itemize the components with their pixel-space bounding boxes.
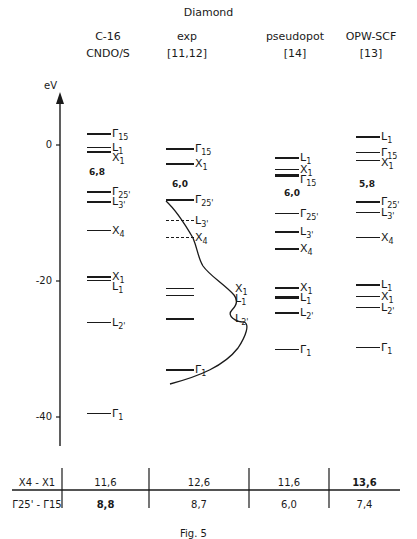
energy-level-line xyxy=(275,312,299,313)
energy-level-line xyxy=(356,212,380,213)
energy-level-line xyxy=(87,276,111,277)
energy-level-label: X4 xyxy=(112,225,125,240)
table-cell: 8,7 xyxy=(149,493,249,515)
energy-level-label: L1 xyxy=(112,281,123,296)
energy-level-line xyxy=(166,369,194,370)
energy-level-label: L3' xyxy=(112,196,125,211)
energy-level-line xyxy=(87,133,111,134)
figure-caption: Fig. 5 xyxy=(180,528,207,539)
table-row: X4 - X1 11,6 12,6 11,6 13,6 xyxy=(12,471,400,493)
energy-level-line xyxy=(356,160,380,161)
energy-level-label: Γ25' xyxy=(195,194,214,209)
energy-level-line xyxy=(166,199,194,200)
energy-level-line xyxy=(87,191,111,192)
energy-level-label: L1 xyxy=(300,292,311,307)
energy-level-line xyxy=(87,322,111,323)
energy-level-line xyxy=(275,157,299,158)
energy-level-label: L2' xyxy=(112,317,125,332)
energy-level-line xyxy=(356,237,380,238)
energy-level-line xyxy=(275,174,299,177)
energy-level-label: L2' xyxy=(300,307,313,322)
energy-level-line xyxy=(87,151,111,152)
energy-level-line xyxy=(275,349,299,350)
energy-level-label: X4 xyxy=(381,232,394,247)
energy-level-line xyxy=(166,163,194,164)
table-cell: 11,6 xyxy=(249,471,329,493)
table-cell: 13,6 xyxy=(329,471,400,493)
energy-level-label: X4 xyxy=(195,232,208,247)
gap-value-opw: 5,8 xyxy=(359,179,375,189)
energy-level-line xyxy=(275,213,299,214)
energy-level-label: Γ1 xyxy=(112,408,123,423)
energy-level-line xyxy=(87,230,111,231)
energy-level-line xyxy=(166,237,194,238)
energy-level-label: X4 xyxy=(300,243,313,258)
energy-level-line xyxy=(356,284,380,285)
energy-level-label: Γ1 xyxy=(381,342,392,357)
energy-level-line xyxy=(275,296,299,299)
energy-level-label: Γ15 xyxy=(300,174,316,189)
energy-level-line xyxy=(356,152,380,153)
gap-value-exp: 6,0 xyxy=(172,179,188,189)
axis-tick-minus40: -40 xyxy=(22,411,52,422)
energy-level-label: L1 xyxy=(235,293,246,308)
energy-level-line xyxy=(275,169,299,170)
axis-tick-minus20: -20 xyxy=(22,275,52,286)
energy-level-label: L2' xyxy=(381,302,394,317)
energy-level-label: X1 xyxy=(195,158,208,173)
table-cell: 6,0 xyxy=(249,493,329,515)
comparison-table: X4 - X1 11,6 12,6 11,6 13,6 Γ25' - Γ15 8… xyxy=(12,471,400,515)
energy-level-label: Γ1 xyxy=(195,364,206,379)
row-label: X4 - X1 xyxy=(12,471,62,493)
table-cell: 11,6 xyxy=(62,471,149,493)
energy-level-line xyxy=(166,148,194,149)
energy-level-line xyxy=(275,287,299,288)
energy-level-label: Γ1 xyxy=(300,344,311,359)
energy-level-label: Γ25' xyxy=(300,208,319,223)
table-cell: 12,6 xyxy=(149,471,249,493)
energy-level-label: X1 xyxy=(381,157,394,172)
energy-level-line xyxy=(166,295,194,296)
energy-level-line xyxy=(166,318,194,319)
energy-level-line xyxy=(356,136,380,137)
energy-level-label: X1 xyxy=(112,152,125,167)
energy-level-line xyxy=(275,248,299,249)
energy-level-line xyxy=(87,147,111,148)
energy-level-line xyxy=(275,231,299,232)
energy-level-line xyxy=(87,280,111,281)
energy-level-label: L3' xyxy=(195,215,208,230)
row-label: Γ25' - Γ15 xyxy=(12,493,62,515)
gap-value-pseudopot: 6,0 xyxy=(284,188,300,198)
axis-tick-0: 0 xyxy=(22,139,52,150)
energy-level-label: L3' xyxy=(300,226,313,241)
energy-level-line xyxy=(87,201,111,202)
table-cell: 7,4 xyxy=(329,493,400,515)
gap-value-cndo: 6,8 xyxy=(89,167,105,177)
energy-level-line xyxy=(356,307,380,308)
energy-level-line xyxy=(356,296,380,297)
table-row: Γ25' - Γ15 8,8 8,7 6,0 7,4 xyxy=(12,493,400,515)
energy-level-label: L1 xyxy=(381,131,392,146)
energy-level-line xyxy=(87,413,111,414)
energy-level-line xyxy=(166,220,194,221)
energy-level-label: Γ15 xyxy=(195,143,211,158)
energy-level-label: L3' xyxy=(381,207,394,222)
energy-level-label: L2' xyxy=(235,313,248,328)
energy-level-line xyxy=(356,347,380,348)
energy-level-line xyxy=(166,288,194,289)
energy-level-line xyxy=(356,201,380,202)
table-cell: 8,8 xyxy=(62,493,149,515)
